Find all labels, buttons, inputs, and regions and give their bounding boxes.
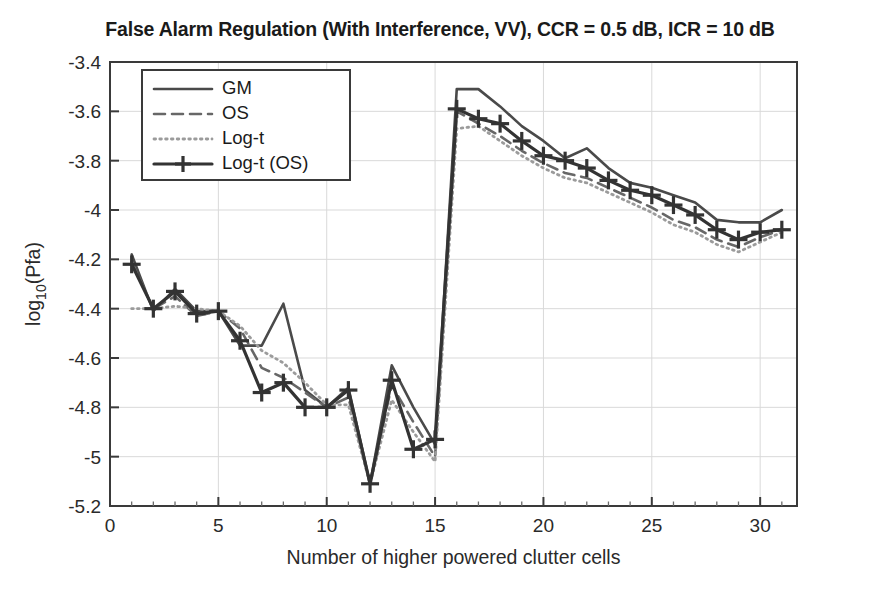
x-tick-label: 15 (425, 515, 446, 536)
y-tick-label: -4.6 (68, 348, 101, 369)
x-tick-label: 0 (105, 515, 116, 536)
y-tick-label: -3.6 (68, 101, 101, 122)
legend-label-2: Log-t (222, 127, 264, 148)
y-tick-label: -3.4 (68, 52, 101, 73)
x-tick-label: 10 (316, 515, 337, 536)
x-tick-label: 30 (750, 515, 771, 536)
y-axis-label-text: log10(Pfa) (22, 242, 49, 326)
y-axis-label: log10(Pfa) (22, 242, 49, 326)
y-tick-label: -4.2 (68, 249, 101, 270)
chart-figure: False Alarm Regulation (With Interferenc… (0, 0, 880, 591)
legend-label-3: Log-t (OS) (222, 152, 308, 173)
legend: GMOSLog-tLog-t (OS) (142, 70, 350, 180)
x-axis-label: Number of higher powered clutter cells (287, 546, 621, 568)
y-tick-label: -4 (84, 200, 101, 221)
plot-canvas: -3.4-3.6-3.8-4-4.2-4.4-4.6-4.8-5-5.20510… (0, 0, 880, 591)
x-tick-label: 20 (533, 515, 554, 536)
x-tick-label: 25 (641, 515, 662, 536)
legend-label-1: OS (222, 102, 249, 123)
y-tick-label: -3.8 (68, 151, 101, 172)
y-tick-label: -5 (84, 447, 101, 468)
y-tick-label: -4.8 (68, 397, 101, 418)
y-tick-label: -4.4 (68, 299, 101, 320)
legend-label-0: GM (222, 77, 252, 98)
x-tick-label: 5 (213, 515, 224, 536)
y-tick-label: -5.2 (68, 496, 101, 517)
